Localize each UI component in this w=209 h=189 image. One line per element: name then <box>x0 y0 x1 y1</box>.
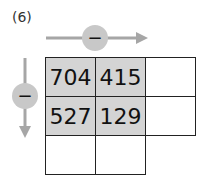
vertical-minus-sign: − <box>17 85 32 106</box>
horizontal-minus-sign: − <box>87 27 102 48</box>
grid-cell: 527 <box>46 97 96 136</box>
subtraction-grid: 704 415 527 129 <box>45 57 196 175</box>
grid-row: 527 129 <box>46 97 196 136</box>
grid-row <box>46 136 196 175</box>
answer-cell[interactable] <box>146 58 196 97</box>
answer-cell[interactable] <box>46 136 96 175</box>
grid-cell: 704 <box>46 58 96 97</box>
answer-cell[interactable] <box>96 136 146 175</box>
answer-cell[interactable] <box>146 97 196 136</box>
grid-cell: 129 <box>96 97 146 136</box>
grid-row: 704 415 <box>46 58 196 97</box>
grid-cell: 415 <box>96 58 146 97</box>
